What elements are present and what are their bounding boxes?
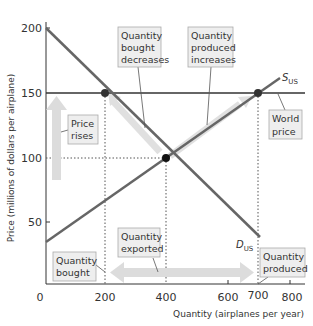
x-tick-0: 0 (37, 291, 44, 304)
x-tick-600: 600 (218, 291, 239, 304)
label-price-rises: Price rises (68, 115, 98, 144)
x-tick-700: 700 (248, 289, 269, 302)
x-tick-800: 800 (282, 291, 303, 304)
label-quantity-bought-decreases: Quantity bought decreases (118, 27, 169, 67)
y-axis-title: Price (millions of dollars per airplane) (6, 74, 16, 242)
svg-text:Quantity: Quantity (121, 30, 162, 41)
y-tick-200: 200 (21, 22, 42, 35)
x-tick-200: 200 (95, 291, 116, 304)
svg-text:rises: rises (71, 130, 93, 141)
x-tick-400: 400 (156, 291, 177, 304)
svg-text:Quantity: Quantity (56, 255, 97, 266)
label-quantity-produced: Quantity produced (260, 248, 308, 277)
chart: Price (millions of dollars per airplane)… (0, 0, 313, 326)
y-tick-50: 50 (28, 216, 42, 229)
svg-text:produced: produced (191, 42, 236, 53)
svg-text:price: price (272, 126, 296, 137)
price-rises-arrow (46, 96, 67, 180)
demand-label: DUS (236, 239, 254, 253)
y-tick-100: 100 (21, 152, 42, 165)
svg-text:bought: bought (56, 267, 90, 278)
quantity-exported-arrow (110, 262, 254, 283)
svg-text:Quantity: Quantity (263, 251, 304, 262)
point-quantity-produced (254, 89, 262, 97)
curve-movement-arrows (108, 92, 252, 156)
y-tick-150: 150 (21, 87, 42, 100)
point-no-trade-equilibrium (162, 154, 170, 162)
label-world-price: World price (269, 110, 302, 139)
supply-label: SUS (282, 72, 298, 86)
x-axis-title: Quantity (airplanes per year) (173, 309, 304, 319)
svg-text:Quantity: Quantity (191, 30, 232, 41)
label-quantity-exported: Quantity exported (118, 228, 164, 257)
label-quantity-bought: Quantity bought (53, 252, 97, 281)
svg-text:decreases: decreases (121, 54, 169, 65)
svg-text:exported: exported (121, 243, 164, 254)
svg-text:Price: Price (71, 118, 94, 129)
svg-text:increases: increases (191, 54, 236, 65)
svg-text:World: World (272, 113, 299, 124)
svg-text:produced: produced (263, 263, 308, 274)
svg-text:bought: bought (121, 42, 155, 53)
svg-text:Quantity: Quantity (121, 231, 162, 242)
label-quantity-produced-increases: Quantity produced increases (188, 27, 236, 67)
point-quantity-bought (101, 89, 109, 97)
